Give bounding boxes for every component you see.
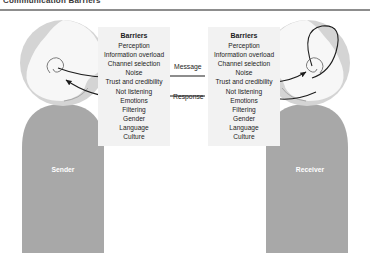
barrier-item: Language	[98, 123, 170, 132]
barrier-item: Information overload	[98, 50, 170, 59]
sender-label: Sender	[43, 166, 83, 173]
barrier-item: Trust and credibility	[208, 77, 280, 86]
communication-barriers-figure: Communication Barriers	[0, 0, 370, 253]
barrier-item: Gender	[98, 114, 170, 123]
diagram-canvas	[0, 0, 370, 253]
response-flow-label: Response	[173, 93, 204, 100]
barrier-item: Gender	[208, 114, 280, 123]
barrier-item: Channel selection	[98, 59, 170, 68]
sender-figure	[20, 20, 106, 253]
barriers-panel-right: Barriers Perception Information overload…	[208, 27, 280, 146]
barrier-item: Not listening	[98, 87, 170, 96]
barrier-item: Emotions	[98, 96, 170, 105]
sender-body	[22, 104, 104, 253]
barriers-title-right: Barriers	[208, 31, 280, 40]
barrier-item: Noise	[98, 68, 170, 77]
message-flow-label: Message	[174, 63, 202, 70]
barrier-item: Information overload	[208, 50, 280, 59]
barrier-item: Perception	[208, 41, 280, 50]
barriers-title-left: Barriers	[98, 31, 170, 40]
barrier-item: Emotions	[208, 96, 280, 105]
receiver-label: Receiver	[288, 166, 332, 173]
barrier-item: Not listening	[208, 87, 280, 96]
barrier-item: Channel selection	[208, 59, 280, 68]
barrier-item: Language	[208, 123, 280, 132]
barrier-item: Perception	[98, 41, 170, 50]
barrier-item: Culture	[208, 132, 280, 141]
barrier-item: Trust and credibility	[98, 77, 170, 86]
barrier-item: Culture	[98, 132, 170, 141]
barriers-panel-left: Barriers Perception Information overload…	[98, 27, 170, 146]
barrier-item: Filtering	[98, 105, 170, 114]
barrier-item: Noise	[208, 68, 280, 77]
barrier-item: Filtering	[208, 105, 280, 114]
